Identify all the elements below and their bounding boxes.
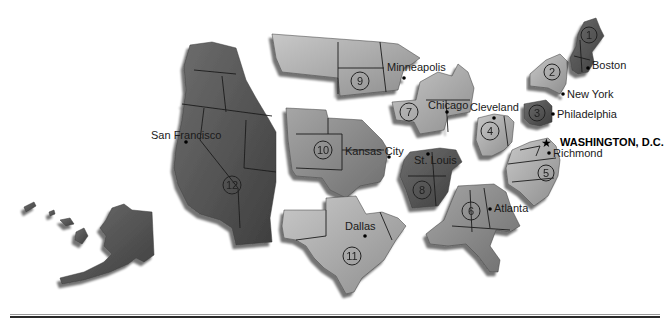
district-6-number: 6 [468, 205, 474, 217]
district-11-region: 11 [282, 196, 406, 294]
district-8-number: 8 [419, 184, 425, 196]
district-9-number: 9 [357, 75, 363, 87]
district-11-number: 11 [346, 250, 357, 262]
city-label-st-louis: St. Louis [414, 154, 457, 166]
city-label-atlanta: Atlanta [494, 202, 529, 214]
district-4-region: 4 [476, 114, 514, 156]
district-3-region: 3 [524, 100, 555, 126]
atlanta-dot [488, 207, 492, 211]
cleveland-dot [492, 116, 496, 120]
city-label-minneapolis: Minneapolis [387, 61, 446, 73]
district-7-number: 7 [406, 106, 412, 118]
philadelphia-dot [551, 112, 555, 116]
district-1-number: 1 [586, 29, 592, 41]
district-5-region: 5 ★ [506, 136, 560, 206]
city-label-cleveland: Cleveland [470, 101, 519, 113]
bottom-rule-dark [10, 316, 660, 318]
city-label-boston: Boston [592, 59, 626, 71]
district-2-number: 2 [549, 66, 555, 78]
city-label-new-york: New York [567, 88, 614, 100]
minneapolis-dot [402, 76, 406, 80]
district-4-number: 4 [487, 125, 493, 137]
district-12-region: 12 [174, 42, 276, 245]
city-label-san-francisco: San Francisco [151, 129, 221, 141]
new-york-dot [561, 92, 565, 96]
district-2-region: 2 [530, 54, 568, 96]
dallas-dot [363, 234, 367, 238]
city-label-dallas: Dallas [345, 220, 376, 232]
city-label-philadelphia: Philadelphia [557, 108, 618, 120]
district-5-number: 5 [543, 167, 549, 179]
city-label-kansas-city: Kansas City [345, 145, 404, 157]
city-label-chicago: Chicago [428, 99, 468, 111]
bottom-rule-light [10, 314, 660, 315]
capital-star-icon: ★ [541, 136, 552, 150]
district-10-number: 10 [317, 144, 329, 156]
federal-reserve-district-map: 12 9 10 11 7 [0, 0, 668, 323]
district-3-number: 3 [534, 107, 540, 119]
alaska-region [24, 202, 154, 284]
district-12-number: 12 [226, 179, 238, 191]
boston-dot [586, 66, 590, 70]
richmond-dot [547, 151, 551, 155]
city-label-richmond: Richmond [553, 147, 603, 159]
